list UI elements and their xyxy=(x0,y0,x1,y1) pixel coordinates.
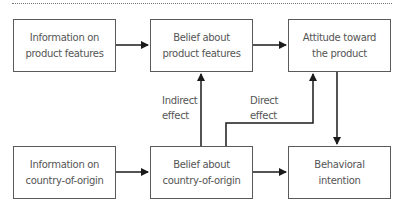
arrow-direct-effect xyxy=(226,74,313,146)
arrows-layer xyxy=(0,0,407,221)
